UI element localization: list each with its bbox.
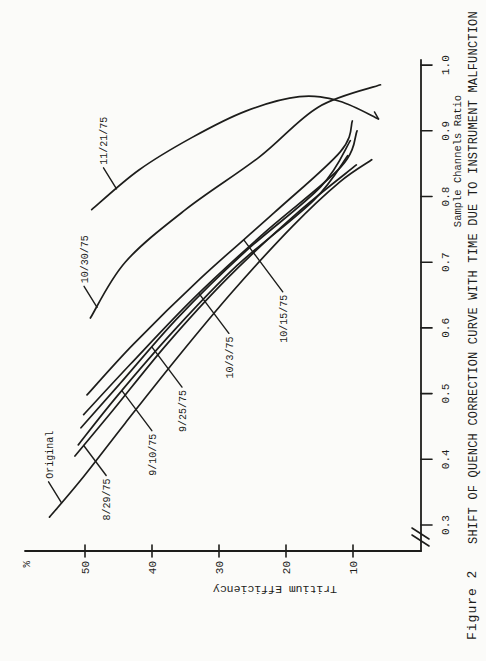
y-tick-label: 30 — [214, 561, 226, 574]
y-tick-label: 10 — [348, 561, 360, 574]
quench-curve-chart: 0.30.40.50.60.70.80.91.05040302010Origin… — [0, 0, 486, 661]
label-leader-line — [152, 347, 182, 387]
x-tick-label: 0.5 — [440, 384, 452, 404]
y-tick-label: 40 — [147, 561, 159, 574]
curve-date-label: 11/21/75 — [99, 117, 110, 165]
x-tick-label: 0.6 — [440, 318, 452, 338]
label-leader-line — [49, 482, 62, 503]
curve-date-label: 9/25/75 — [178, 390, 189, 432]
x-tick-label: 0.4 — [440, 449, 452, 469]
quench-curve-10-3-75 — [84, 131, 357, 415]
x-axis-label: Sample Channels Ratio — [452, 91, 464, 231]
curve-date-label: 10/15/75 — [279, 295, 290, 343]
label-leader-line — [103, 168, 116, 189]
label-leader-line — [122, 391, 152, 431]
y-axis-label: Tritium Efficiency — [213, 583, 337, 596]
x-tick-label: 1.0 — [440, 55, 452, 75]
quench-curve-11-21-75 — [92, 96, 379, 210]
y-axis-unit-label: % — [21, 561, 33, 591]
figure-title: SHIFT OF QUENCH CORRECTION CURVE WITH TI… — [467, 11, 481, 544]
quench-curve-10-30-75 — [90, 85, 380, 318]
figure-caption: Figure 2 — [465, 570, 480, 640]
label-leader-line — [244, 240, 283, 292]
curve-date-label: 8/29/75 — [102, 479, 113, 521]
y-tick-label: 20 — [281, 561, 293, 574]
x-tick-label: 0.8 — [440, 187, 452, 207]
x-tick-label: 0.3 — [440, 515, 452, 535]
curve-date-label: 10/30/75 — [80, 235, 91, 283]
scanned-document-page: 0.30.40.50.60.70.80.91.05040302010Origin… — [0, 0, 486, 661]
rotated-figure: 0.30.40.50.60.70.80.91.05040302010Origin… — [0, 0, 486, 661]
y-tick-label: 50 — [80, 561, 92, 574]
x-tick-label: 0.7 — [440, 252, 452, 272]
x-tick-label: 0.9 — [440, 121, 452, 141]
quench-curve-10-15-75 — [87, 121, 352, 395]
curve-date-label: 10/3/75 — [225, 336, 236, 378]
label-leader-line — [84, 286, 97, 307]
label-leader-line — [199, 293, 229, 333]
curve-date-label: 9/10/75 — [148, 434, 159, 476]
curve-date-label: Original — [45, 431, 56, 479]
